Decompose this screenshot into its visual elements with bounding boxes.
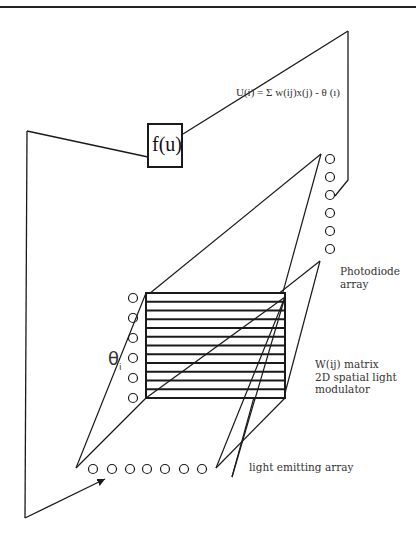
activation-function-label: f(u): [152, 133, 182, 155]
light-emitting-array-label: light emitting array: [249, 462, 353, 474]
threshold-source-array: [129, 294, 138, 403]
feedback-loop: [25, 31, 348, 518]
threshold-subscript: i: [119, 362, 122, 372]
threshold-label: θi: [108, 349, 122, 372]
threshold-symbol: θ: [108, 348, 119, 369]
weight-matrix-slm: [146, 293, 285, 477]
light-emitting-array: [89, 465, 207, 474]
weight-matrix-label: W(ij) matrix 2D spatial light modulator: [315, 358, 397, 396]
neuron-equation-label: U(i) = Σ w(ij)x(j) - θ (ı): [236, 86, 340, 98]
photodiode-array: [326, 155, 335, 254]
photodiode-array-label: Photodiode array: [340, 265, 400, 291]
